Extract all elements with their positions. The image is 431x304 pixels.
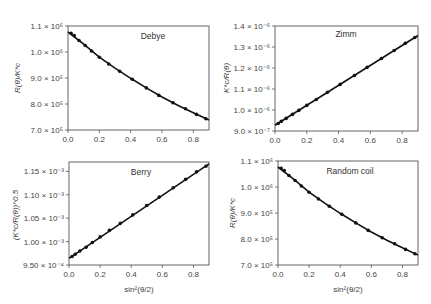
x-tick-label: 0.6 xyxy=(365,136,377,145)
y-axis-label: R(θ)/K*c xyxy=(228,198,237,228)
data-point xyxy=(130,78,134,82)
x-tick-label: 0.8 xyxy=(188,135,200,144)
data-point xyxy=(72,34,76,38)
x-tick-label: 0.6 xyxy=(157,270,169,279)
fit-line xyxy=(278,167,418,255)
y-tick-label: 1.1 × 10⁶ xyxy=(31,22,63,31)
data-point xyxy=(380,57,384,61)
data-point xyxy=(353,74,357,78)
data-point xyxy=(326,91,330,95)
data-point xyxy=(118,69,122,73)
y-tick-label: 1.05 × 10⁻³ xyxy=(24,214,65,223)
data-point xyxy=(293,179,297,183)
data-point xyxy=(393,242,397,246)
y-tick-label: 9.50 × 10⁻⁴ xyxy=(23,261,65,270)
data-point xyxy=(305,104,309,108)
x-tick-label: 0.2 xyxy=(301,136,313,145)
data-point xyxy=(276,122,280,126)
y-tick-label: 1.0 × 10⁶ xyxy=(241,183,273,192)
panel-random-coil: Random coil R(θ)/K*c sin²(θ/2) 0.00.20.4… xyxy=(228,157,418,294)
data-point xyxy=(195,170,199,174)
y-tick-label: 1.3 × 10⁻⁶ xyxy=(234,43,270,52)
y-axis-label: (K*c/R(θ))^0.5 xyxy=(11,189,20,240)
data-point xyxy=(204,164,208,168)
y-tick-label: 7.0 × 10⁵ xyxy=(31,126,63,135)
data-point xyxy=(354,221,358,225)
y-tick-label: 1.10 × 10⁻³ xyxy=(24,191,65,200)
fit-line xyxy=(68,32,209,120)
panel-zimm: Zimm K*c/R(θ) 0.00.20.40.60.89.0 × 10⁻⁷1… xyxy=(222,22,418,145)
data-point xyxy=(282,169,286,173)
y-tick-label: 9.0 × 10⁻⁷ xyxy=(234,127,270,136)
plot-frame xyxy=(275,26,418,131)
data-point xyxy=(413,36,417,40)
data-point xyxy=(380,236,384,240)
data-point xyxy=(78,249,82,253)
data-point xyxy=(284,117,288,121)
data-point xyxy=(204,117,208,121)
x-tick-label: 0.0 xyxy=(269,136,281,145)
x-tick-label: 0.4 xyxy=(125,135,137,144)
data-point xyxy=(119,222,123,226)
y-tick-label: 8.0 × 10⁵ xyxy=(241,235,273,244)
data-point xyxy=(157,195,161,199)
x-tick-label: 0.2 xyxy=(95,270,107,279)
x-tick-label: 0.4 xyxy=(126,270,138,279)
panel-title: Random coil xyxy=(326,166,373,176)
data-point xyxy=(145,204,149,208)
y-axis-label: K*c/R(θ) xyxy=(222,63,231,93)
y-tick-label: 8.0 × 10⁵ xyxy=(31,100,63,109)
x-axis-label: sin²(θ/2) xyxy=(333,285,363,294)
data-point xyxy=(413,252,417,256)
data-point xyxy=(184,178,188,182)
data-point xyxy=(98,55,102,59)
plot-frame xyxy=(68,26,209,130)
figure-grid: Debye R(θ)/K*c 0.00.20.40.60.87.0 × 10⁵8… xyxy=(0,0,431,304)
x-tick-label: 0.4 xyxy=(335,270,347,279)
data-point xyxy=(403,41,407,45)
y-tick-label: 9.0 × 10⁵ xyxy=(241,209,273,218)
x-tick-label: 0.2 xyxy=(94,135,106,144)
data-point xyxy=(84,245,88,249)
data-point xyxy=(328,204,332,208)
data-point xyxy=(280,120,284,124)
y-tick-label: 9.0 × 10⁵ xyxy=(31,74,63,83)
data-point xyxy=(392,49,396,53)
data-point xyxy=(307,190,311,194)
data-point xyxy=(291,113,295,117)
data-point xyxy=(366,229,370,233)
data-point xyxy=(70,255,74,259)
data-point xyxy=(73,252,77,256)
y-tick-label: 1.2 × 10⁻⁶ xyxy=(234,64,270,73)
x-tick-label: 0.8 xyxy=(397,270,409,279)
data-point xyxy=(69,31,73,35)
data-point xyxy=(317,197,321,201)
x-tick-label: 0.8 xyxy=(397,136,409,145)
x-tick-label: 0.2 xyxy=(304,270,316,279)
data-point xyxy=(91,241,95,245)
y-tick-label: 1.15 × 10⁻³ xyxy=(24,167,65,176)
x-tick-label: 0.6 xyxy=(366,270,378,279)
data-point xyxy=(108,229,112,233)
fit-line xyxy=(69,164,209,259)
x-tick-label: 0.0 xyxy=(272,270,284,279)
data-point xyxy=(365,66,369,70)
x-axis-label: sin²(θ/2) xyxy=(124,285,154,294)
x-tick-label: 0.4 xyxy=(333,136,345,145)
data-point xyxy=(171,186,175,190)
data-point xyxy=(184,107,188,111)
plot-frame xyxy=(278,161,418,265)
panel-berry: Berry (K*c/R(θ))^0.5 sin²(θ/2) 0.00.20.4… xyxy=(11,162,209,294)
y-tick-label: 1.00 × 10⁻³ xyxy=(24,238,65,247)
data-point xyxy=(107,62,111,66)
panel-debye: Debye R(θ)/K*c 0.00.20.40.60.87.0 × 10⁵8… xyxy=(13,22,209,144)
y-tick-label: 1.4 × 10⁻⁶ xyxy=(234,22,270,31)
data-point xyxy=(338,83,342,87)
x-tick-label: 0.8 xyxy=(188,270,200,279)
y-tick-label: 1.0 × 10⁶ xyxy=(31,48,63,57)
y-tick-label: 1.1 × 10⁻⁶ xyxy=(234,85,270,94)
data-point xyxy=(77,39,81,43)
data-point xyxy=(98,235,102,239)
x-tick-label: 0.6 xyxy=(156,135,168,144)
x-tick-label: 0.0 xyxy=(63,270,75,279)
